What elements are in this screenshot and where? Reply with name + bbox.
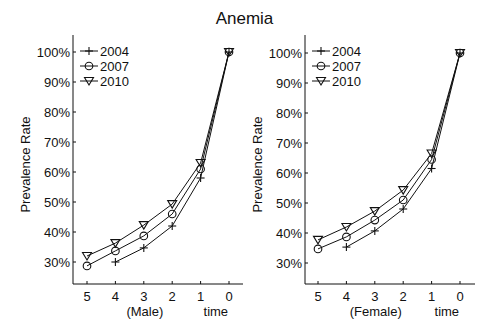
x-sublabel: (Male) — [126, 304, 163, 319]
legend-item-2010: 2010 — [80, 74, 129, 89]
svg-text:2004: 2004 — [332, 44, 361, 59]
x-tick-label: 2 — [400, 289, 407, 304]
male-panel: 30%40%50%60%70%80%90%100%543210(Male)tim… — [18, 35, 243, 319]
x-axis-label: time — [435, 304, 460, 319]
series-2004 — [111, 48, 233, 266]
svg-text:2010: 2010 — [100, 74, 129, 89]
x-tick-label: 3 — [371, 289, 378, 304]
legend-item-2010: 2010 — [312, 74, 361, 89]
y-tick-label: 100% — [37, 45, 71, 60]
svg-text:2004: 2004 — [100, 44, 129, 59]
legend-item-2004: 2004 — [312, 44, 361, 59]
y-tick-label: 70% — [44, 135, 70, 150]
x-tick-label: 0 — [456, 289, 463, 304]
y-tick-label: 90% — [44, 75, 70, 90]
svg-text:2007: 2007 — [332, 59, 361, 74]
y-tick-label: 100% — [269, 46, 303, 61]
legend-item-2004: 2004 — [80, 44, 129, 59]
x-tick-label: 2 — [169, 289, 176, 304]
female-panel: 30%40%50%60%70%80%90%100%543210(Female)t… — [250, 35, 475, 319]
y-tick-label: 80% — [44, 105, 70, 120]
svg-text:2010: 2010 — [332, 74, 361, 89]
y-tick-label: 60% — [44, 165, 70, 180]
x-tick-label: 5 — [83, 289, 90, 304]
y-tick-label: 70% — [276, 136, 302, 151]
x-sublabel: (Female) — [350, 304, 402, 319]
legend-item-2007: 2007 — [80, 59, 129, 74]
y-tick-label: 30% — [44, 255, 70, 270]
y-tick-label: 40% — [44, 225, 70, 240]
x-tick-label: 5 — [314, 289, 321, 304]
y-tick-label: 40% — [276, 226, 302, 241]
y-tick-label: 90% — [276, 76, 302, 91]
svg-text:2007: 2007 — [100, 59, 129, 74]
anemia-chart: 30%40%50%60%70%80%90%100%543210(Male)tim… — [0, 0, 489, 330]
legend-item-2007: 2007 — [312, 59, 361, 74]
y-tick-label: 50% — [276, 196, 302, 211]
x-tick-label: 1 — [428, 289, 435, 304]
x-tick-label: 3 — [140, 289, 147, 304]
x-tick-label: 4 — [112, 289, 119, 304]
x-tick-label: 0 — [225, 289, 232, 304]
x-axis-label: time — [204, 304, 229, 319]
x-tick-label: 4 — [343, 289, 350, 304]
y-axis-label: Prevalence Rate — [18, 116, 33, 212]
x-tick-label: 1 — [197, 289, 204, 304]
y-tick-label: 80% — [276, 106, 302, 121]
y-tick-label: 50% — [44, 195, 70, 210]
y-axis-label: Prevalence Rate — [250, 116, 265, 212]
y-tick-label: 60% — [276, 166, 302, 181]
y-tick-label: 30% — [276, 256, 302, 271]
